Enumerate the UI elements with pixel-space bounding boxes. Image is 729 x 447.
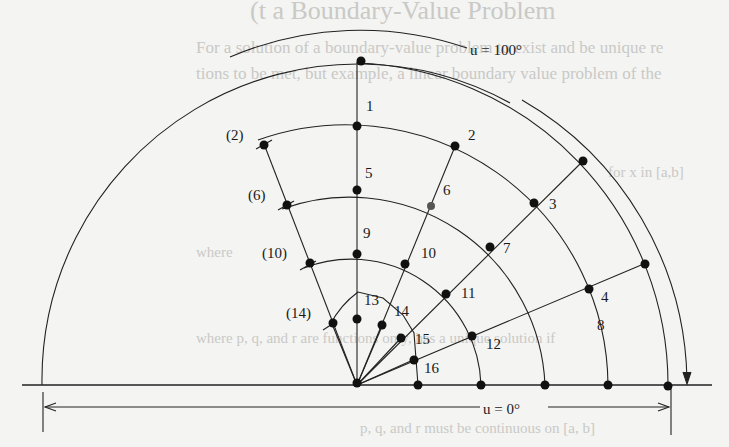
top-boundary-arc [230,30,467,57]
grid-nodes [260,57,673,391]
node-label-5: 5 [365,165,373,181]
node-label-7: 7 [503,240,511,256]
arrow-down-icon [683,372,691,384]
node-label-10: 10 [421,245,436,261]
mirror-label-2: (2) [226,127,244,144]
bottom-boundary-label: u = 0° [483,401,520,417]
node-label-3: 3 [549,196,557,212]
spoke-14 [332,324,357,385]
node-label-8: 8 [597,317,605,333]
top-boundary-label: u = 100° [470,42,522,58]
mirror-label-6: (6) [248,187,266,204]
outer-boundary-arc [42,64,510,385]
spoke-3 [357,160,584,385]
node-label-14: 14 [394,303,410,319]
mirror-label-14: (14) [286,305,311,322]
node-label-9: 9 [363,225,371,241]
spoke-15 [357,338,401,385]
node-label-13: 13 [364,292,379,308]
node-label-11: 11 [461,285,475,301]
node-label-16: 16 [424,360,440,376]
node-label-12: 12 [486,336,501,352]
right-boundary-arc [522,100,687,380]
node-label-15: 15 [415,331,430,347]
polar-grid-diagram: u = 100° u = 0° 1 2 3 4 5 6 7 8 9 10 11 … [0,0,729,447]
node-label-4: 4 [601,289,609,305]
mirror-label-10: (10) [262,245,287,262]
node-label-6: 6 [443,182,451,198]
node-label-2: 2 [468,127,476,143]
node-label-1: 1 [366,98,374,114]
